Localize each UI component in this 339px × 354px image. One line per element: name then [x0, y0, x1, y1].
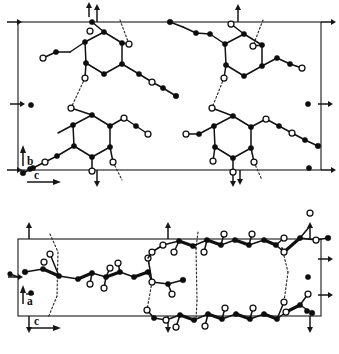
- packing-diagram-canvas: b c: [0, 0, 339, 354]
- axis-label-b: b: [27, 155, 33, 167]
- symmetry-tick-marks-upper: [7, 19, 336, 173]
- axis-label-c-lower: c: [34, 315, 39, 327]
- molecule-lower-left-edge-fragment: [8, 272, 18, 277]
- molecule-lower-bottom-right: [144, 291, 315, 330]
- upper-panel: b c: [7, 2, 336, 187]
- molecule-upper-left: [20, 19, 179, 180]
- molecule-lower-top-right: [148, 210, 331, 258]
- axis-label-c-upper: c: [34, 169, 39, 181]
- unit-cell-outline-upper: [18, 22, 321, 170]
- lower-panel: a c: [8, 210, 333, 333]
- axis-indicator-lower: a c: [20, 285, 61, 331]
- molecule-lower-left: [22, 251, 186, 297]
- molecule-upper-right: [167, 19, 321, 180]
- screw-axis-arrows-upper: [86, 2, 243, 187]
- axis-label-a: a: [27, 295, 33, 307]
- unit-cell-outline-lower: [18, 239, 321, 316]
- crystal-packing-figure: b c: [0, 0, 339, 354]
